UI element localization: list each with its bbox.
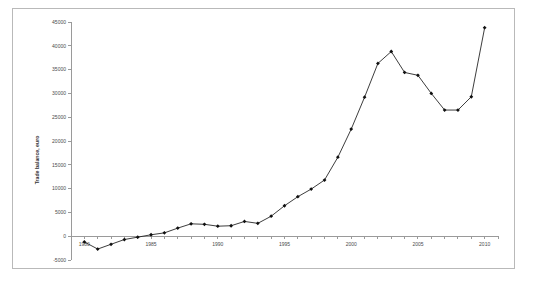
- data-point-marker: [122, 238, 126, 242]
- data-point-marker: [256, 221, 260, 225]
- series-markers: [82, 26, 486, 251]
- data-point-marker: [483, 26, 487, 30]
- data-point-marker: [363, 95, 367, 99]
- x-tick-label: 2010: [479, 241, 490, 247]
- data-point-marker: [203, 222, 207, 226]
- x-tick-label: 1985: [146, 241, 157, 247]
- y-tick-label: 15000: [52, 162, 66, 168]
- y-tick-label: 20000: [52, 138, 66, 144]
- line-chart: -500005000100001500020000250003000035000…: [0, 0, 538, 285]
- data-point-marker: [336, 155, 340, 159]
- y-tick-label: 5000: [55, 209, 66, 215]
- data-point-marker: [189, 222, 193, 226]
- x-tick-label: 2005: [412, 241, 423, 247]
- x-tick-label: 2000: [346, 241, 357, 247]
- data-point-marker: [109, 242, 113, 246]
- y-tick-label: 30000: [52, 90, 66, 96]
- x-tick-label: 1995: [279, 241, 290, 247]
- data-point-marker: [96, 247, 100, 251]
- data-point-marker: [163, 231, 167, 235]
- y-axis-title: Trade balance, euro: [34, 136, 40, 185]
- y-tick-label: -5000: [53, 257, 66, 263]
- y-tick-label: 35000: [52, 66, 66, 72]
- series-line-path: [84, 28, 484, 249]
- data-point-marker: [243, 220, 247, 224]
- y-tick-label: 45000: [52, 19, 66, 25]
- y-tick-label: 0: [63, 233, 66, 239]
- y-tick-label: 40000: [52, 43, 66, 49]
- y-axis-ticks: -500005000100001500020000250003000035000…: [52, 19, 71, 263]
- data-point-marker: [349, 127, 353, 131]
- data-point-marker: [216, 224, 220, 228]
- chart-page: -500005000100001500020000250003000035000…: [0, 0, 538, 285]
- y-tick-label: 10000: [52, 185, 66, 191]
- y-tick-label: 25000: [52, 114, 66, 120]
- chart-area: -500005000100001500020000250003000035000…: [0, 0, 538, 285]
- x-tick-label: 1990: [212, 241, 223, 247]
- data-point-marker: [176, 226, 180, 230]
- data-point-marker: [229, 224, 233, 228]
